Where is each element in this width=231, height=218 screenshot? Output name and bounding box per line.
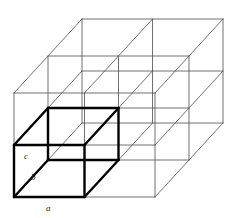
lattice-vector-c-label: c bbox=[24, 151, 28, 161]
lattice-vector-a-label: a bbox=[46, 203, 51, 213]
lattice-vector-b-label: b bbox=[31, 172, 36, 182]
lattice-diagram: a b c bbox=[0, 0, 231, 218]
lattice-figure: a b c bbox=[0, 0, 231, 218]
